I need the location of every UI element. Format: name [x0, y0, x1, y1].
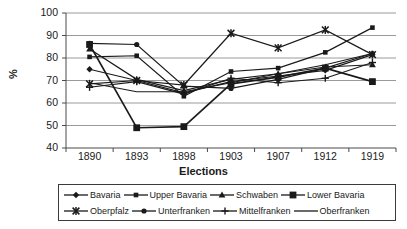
legend-item-label: Schwaben: [235, 190, 280, 200]
line-chart: % 100908070605040 1890189318981903190719…: [0, 0, 407, 229]
data-point-plus: [86, 84, 93, 91]
chart-legend: BavariaUpper BavariaSchwabenLower Bavari…: [58, 184, 396, 221]
marker-circle: [134, 42, 139, 47]
data-point-small-square: [276, 66, 281, 71]
y-axis-title: %: [7, 63, 19, 85]
x-axis-tick-label: 1893: [115, 150, 159, 162]
marker-circle: [181, 84, 186, 89]
data-point-circle: [228, 86, 233, 91]
legend-item-label: Upper Bavaria: [149, 190, 210, 200]
data-point-small-square: [133, 193, 138, 198]
data-point-plus: [133, 78, 140, 85]
data-point-large-square: [180, 123, 187, 130]
marker-square-large: [369, 78, 376, 85]
legend-item-upper-bavaria[interactable]: Upper Bavaria: [123, 189, 210, 201]
data-point-diamond: [86, 66, 92, 72]
marker-square-large: [180, 123, 187, 130]
data-point-large-square: [133, 124, 140, 131]
legend-symbol-circle-icon: [131, 205, 157, 217]
marker-square: [229, 69, 234, 74]
legend-item-oberfranken[interactable]: Oberfranken: [293, 205, 372, 217]
data-point-large-square: [369, 78, 376, 85]
legend-symbol-triangle-icon: [209, 189, 235, 201]
legend-item-label: Bavaria: [89, 190, 123, 200]
y-axis-tick-label: 100: [26, 6, 58, 18]
data-point-circle: [87, 41, 92, 46]
legend-item-label: Lower Bavaria: [306, 190, 367, 200]
legend-item-label: Oberpfalz: [89, 206, 131, 216]
legend-item-label: Mittelfranken: [238, 206, 293, 216]
legend-item-lower-bavaria[interactable]: Lower Bavaria: [280, 189, 367, 201]
legend-item-mittelfranken[interactable]: Mittelfranken: [212, 205, 293, 217]
data-point-large-square: [290, 192, 297, 199]
legend-item-schwaben[interactable]: Schwaben: [209, 189, 280, 201]
y-axis-tick-label: 80: [26, 51, 58, 63]
legend-item-label: Unterfranken: [157, 206, 212, 216]
y-axis-tick-label: 70: [26, 74, 58, 86]
data-point-circle: [141, 208, 146, 213]
x-axis-tick-label: 1890: [68, 150, 112, 162]
data-point-small-square: [229, 69, 234, 74]
marker-circle: [323, 66, 328, 71]
y-axis-tick-label: 60: [26, 96, 58, 108]
data-point-small-square: [134, 53, 139, 58]
data-point-small-square: [370, 25, 375, 30]
data-point-star: [228, 29, 235, 37]
data-point-star: [275, 44, 282, 52]
y-axis-tick-label: 90: [26, 29, 58, 41]
marker-square: [87, 55, 92, 60]
x-axis-tick-label: 1903: [209, 150, 253, 162]
marker-circle: [87, 41, 92, 46]
legend-item-unterfranken[interactable]: Unterfranken: [131, 205, 212, 217]
x-axis-tick-label: 1912: [303, 150, 347, 162]
marker-square: [134, 53, 139, 58]
data-point-small-square: [87, 55, 92, 60]
legend-symbol-diamond-icon: [63, 189, 89, 201]
marker-diamond: [86, 66, 92, 72]
data-point-plus: [221, 207, 228, 214]
marker-square: [276, 66, 281, 71]
legend-item-bavaria[interactable]: Bavaria: [63, 189, 123, 201]
legend-symbol-large-square-icon: [280, 189, 306, 201]
x-axis-title: Elections: [0, 165, 407, 177]
legend-item-label: Oberfranken: [319, 206, 372, 216]
data-point-circle: [134, 42, 139, 47]
data-point-small-square: [323, 50, 328, 55]
y-axis-tick-label: 40: [26, 141, 58, 153]
data-point-circle: [181, 84, 186, 89]
legend-row: BavariaUpper BavariaSchwabenLower Bavari…: [59, 187, 395, 203]
x-axis-tick-label: 1907: [256, 150, 300, 162]
legend-row: OberpfalzUnterfrankenMittelfrankenOberfr…: [59, 203, 395, 219]
legend-item-oberpfalz[interactable]: Oberpfalz: [63, 205, 131, 217]
x-axis-tick-label: 1898: [162, 150, 206, 162]
marker-square: [370, 25, 375, 30]
data-point-star: [322, 26, 329, 34]
y-axis-tick-label: 50: [26, 119, 58, 131]
data-point-circle: [323, 66, 328, 71]
x-axis-tick-label: 1919: [350, 150, 394, 162]
marker-circle: [141, 208, 146, 213]
marker-diamond: [73, 192, 79, 198]
data-point-diamond: [73, 192, 79, 198]
marker-square-large: [133, 124, 140, 131]
legend-symbol-plus-icon: [212, 205, 238, 217]
marker-square: [323, 50, 328, 55]
legend-symbol-none-icon: [293, 205, 319, 217]
legend-symbol-star-icon: [63, 205, 89, 217]
marker-square: [133, 193, 138, 198]
marker-circle: [228, 86, 233, 91]
legend-symbol-small-square-icon: [123, 189, 149, 201]
marker-square-large: [290, 192, 297, 199]
